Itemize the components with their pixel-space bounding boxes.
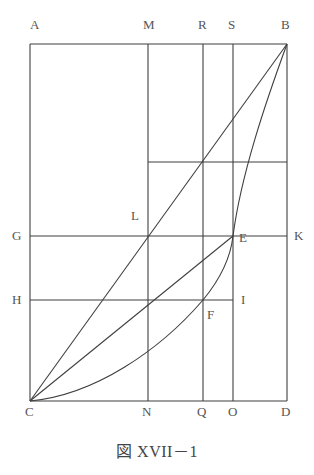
segment-diagonal-CB	[30, 44, 287, 401]
vertex-label-K: K	[294, 229, 304, 242]
vertex-label-M: M	[143, 18, 155, 31]
vertex-label-F: F	[207, 308, 214, 321]
vertex-label-N: N	[142, 405, 152, 418]
vertex-label-S: S	[228, 18, 235, 31]
vertex-label-O: O	[228, 405, 238, 418]
vertex-label-H: H	[12, 293, 22, 306]
vertex-label-L: L	[131, 209, 139, 222]
vertex-label-Q: Q	[197, 405, 207, 418]
vertex-label-D: D	[281, 405, 291, 418]
vertex-label-R: R	[198, 18, 207, 31]
figure-caption: 図 XVII－1	[0, 438, 314, 462]
figure-container: A M R S B G L E K H F I C N Q O D 図 XVII…	[0, 0, 314, 475]
geometry-diagram	[0, 0, 314, 475]
vertex-label-C: C	[25, 405, 34, 418]
vertex-label-A: A	[30, 18, 40, 31]
vertex-label-E: E	[239, 231, 247, 244]
vertex-label-I: I	[241, 293, 246, 306]
vertex-label-B: B	[281, 18, 290, 31]
vertex-label-G: G	[12, 229, 22, 242]
